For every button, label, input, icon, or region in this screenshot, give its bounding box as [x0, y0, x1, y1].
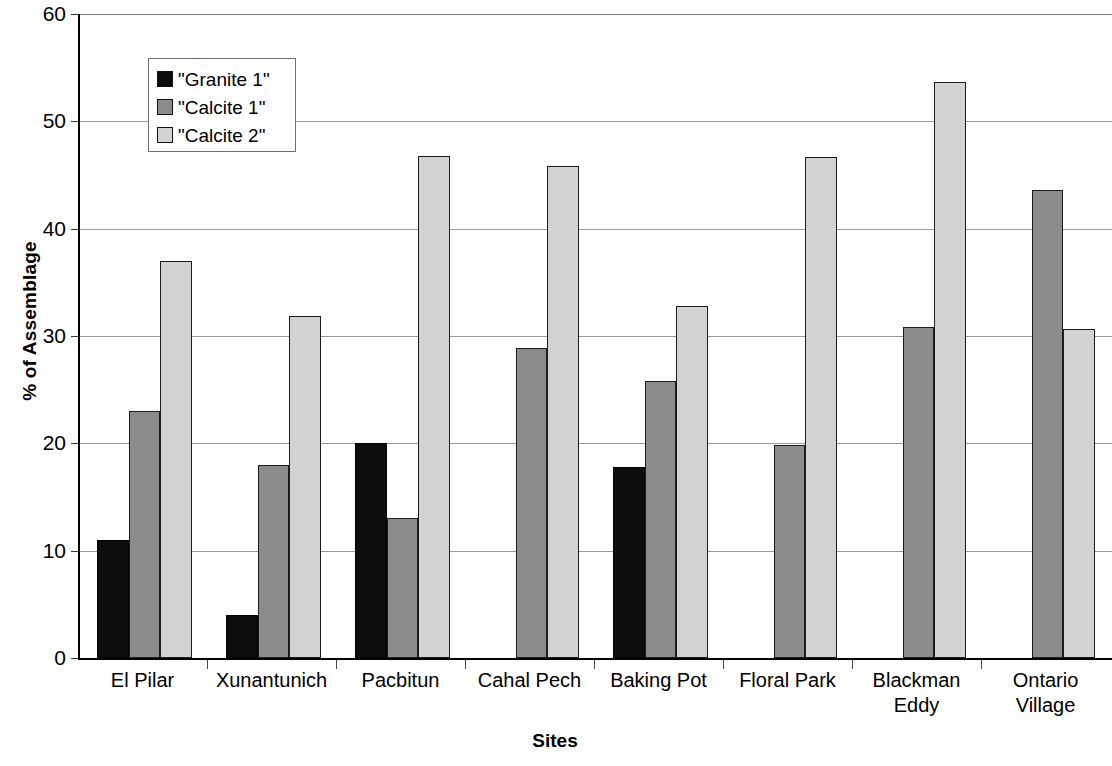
y-axis-tick-mark — [71, 121, 78, 122]
bar — [258, 465, 290, 658]
y-axis-tick-label: 0 — [0, 647, 66, 668]
y-axis-tick-label: 10 — [0, 540, 66, 561]
bar — [903, 327, 935, 658]
bar — [934, 82, 966, 658]
y-axis-tick-mark — [71, 658, 78, 659]
y-axis-tick-mark — [71, 551, 78, 552]
bar — [226, 615, 258, 658]
legend-item-label: "Granite 1" — [178, 70, 270, 89]
y-axis-tick-label: 30 — [0, 325, 66, 346]
bar — [676, 306, 708, 658]
legend-swatch-icon — [157, 99, 173, 115]
legend-swatch-icon — [157, 71, 173, 87]
bar — [418, 156, 450, 658]
x-axis-category-label: Ontario Village — [981, 668, 1110, 718]
x-axis-title: Sites — [0, 730, 1110, 752]
bar — [1063, 329, 1095, 659]
bar — [516, 348, 548, 658]
legend-item: "Calcite 2" — [157, 121, 295, 149]
x-axis-category-label: El Pilar — [78, 668, 207, 693]
legend-swatch-icon — [157, 127, 173, 143]
legend-item: "Granite 1" — [157, 65, 295, 93]
y-axis-tick-label: 50 — [0, 110, 66, 131]
y-axis-tick-mark — [71, 443, 78, 444]
y-axis-tick-label: 40 — [0, 218, 66, 239]
bar — [645, 381, 677, 658]
bar — [129, 411, 161, 658]
legend-item: "Calcite 1" — [157, 93, 295, 121]
bar — [805, 157, 837, 658]
x-axis-category-label: Blackman Eddy — [852, 668, 981, 718]
bar — [547, 166, 579, 658]
bar — [97, 540, 129, 658]
bar — [160, 261, 192, 658]
y-axis-tick-mark — [71, 336, 78, 337]
bar — [1032, 190, 1064, 658]
legend: "Granite 1""Calcite 1""Calcite 2" — [148, 58, 296, 152]
legend-item-label: "Calcite 1" — [178, 98, 265, 117]
x-axis-category-label: Baking Pot — [594, 668, 723, 693]
bar — [613, 467, 645, 658]
x-axis-category-label: Floral Park — [723, 668, 852, 693]
bar — [387, 518, 419, 658]
y-axis-tick-label: 20 — [0, 432, 66, 453]
x-axis-category-label: Pacbitun — [336, 668, 465, 693]
gridline — [80, 14, 1112, 15]
y-axis-tick-mark — [71, 14, 78, 15]
y-axis-tick-label: 60 — [0, 3, 66, 24]
y-axis-tick-mark — [71, 229, 78, 230]
x-axis-category-label: Xunantunich — [207, 668, 336, 693]
legend-item-label: "Calcite 2" — [178, 126, 265, 145]
x-axis-category-label: Cahal Pech — [465, 668, 594, 693]
bar — [774, 445, 806, 658]
y-axis-title: % of Assemblage — [19, 221, 41, 421]
bar — [289, 316, 321, 658]
bar — [355, 443, 387, 658]
